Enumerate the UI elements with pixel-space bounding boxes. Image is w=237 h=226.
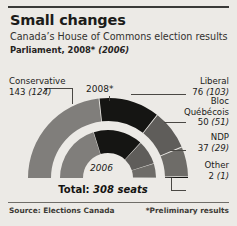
label-conservative-value: 143: [9, 87, 25, 97]
arc-outer-liberal: [100, 98, 157, 133]
label-other-value: 2: [209, 171, 214, 181]
label-conservative-prev: (124): [28, 87, 51, 97]
ring-label-2006: 2006: [90, 163, 113, 173]
footnote: *Preliminary results: [146, 206, 229, 215]
label-bloc-value: 50: [198, 117, 209, 127]
arc-outer-other: [165, 177, 188, 178]
label-conservative-values: 143 (124): [9, 87, 66, 98]
label-ndp-name: NDP: [198, 132, 229, 143]
bottom-divider: [8, 202, 229, 203]
label-liberal-value: 76: [192, 87, 203, 97]
label-other-values: 2 (1): [205, 171, 229, 182]
label-other-name: Other: [205, 160, 229, 171]
arc-outer-ndp: [161, 147, 188, 176]
label-liberal-name: Liberal: [192, 76, 229, 87]
label-conservative-name: Conservative: [9, 76, 66, 87]
leader-line-other: [171, 178, 186, 190]
parliament-caption: Parliament, 2008* (2006): [10, 45, 129, 55]
label-ndp-values: 37 (29): [198, 143, 229, 154]
subtitle: Canada’s House of Commons election resul…: [10, 31, 228, 42]
arc-inner-liberal: [94, 130, 141, 160]
label-ndp: NDP 37 (29): [198, 132, 229, 153]
parliament-current-label: Parliament, 2008*: [10, 45, 95, 55]
ring-label-2008: 2008*: [86, 84, 113, 94]
infographic-panel: Small changes Canada’s House of Commons …: [0, 0, 237, 226]
page-title: Small changes: [10, 12, 126, 28]
arc-outer-bloc-qu-b-cois: [143, 115, 181, 155]
arc-inner-bloc-qu-b-cois: [125, 143, 154, 170]
parliament-previous-label: (2006): [98, 45, 129, 55]
leader-line-group: [44, 88, 186, 190]
label-bloc-name2: Québécois: [184, 107, 229, 118]
label-bloc-name: Bloc: [184, 96, 229, 107]
total-seats: Total: 308 seats: [38, 184, 168, 195]
label-other: Other 2 (1): [205, 160, 229, 181]
arc-inner-ndp: [132, 164, 156, 178]
total-prefix: Total:: [58, 184, 89, 195]
label-liberal: Liberal 76 (103): [192, 76, 229, 97]
label-liberal-prev: (103): [206, 87, 229, 97]
label-ndp-value: 37: [198, 143, 209, 153]
label-bloc-values: 50 (51): [184, 117, 229, 128]
label-bloc-prev: (51): [211, 117, 229, 127]
label-other-prev: (1): [217, 171, 229, 181]
top-divider: [8, 6, 229, 8]
source-credit: Source: Elections Canada: [9, 206, 115, 215]
total-value: 308 seats: [93, 184, 148, 195]
label-conservative: Conservative 143 (124): [9, 76, 66, 97]
label-bloc-quebecois: Bloc Québécois 50 (51): [184, 96, 229, 128]
label-ndp-prev: (29): [211, 143, 229, 153]
